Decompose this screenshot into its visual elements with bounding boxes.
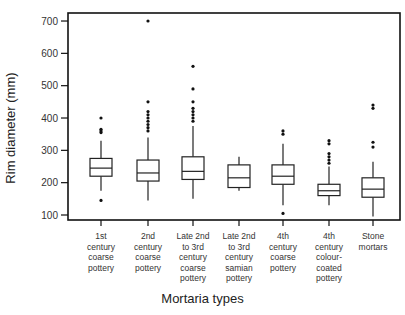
category-label-line: 1st (76, 231, 126, 242)
outlier-point (146, 126, 149, 129)
x-axis-title: Mortaria types (0, 291, 405, 306)
outlier-point (371, 146, 374, 149)
iqr-box (137, 160, 159, 181)
outlier-point (327, 162, 330, 165)
outlier-point (99, 199, 102, 202)
category-label-line: mortars (348, 242, 398, 253)
y-tick-label: 600 (41, 48, 58, 59)
y-tick-label: 400 (41, 113, 58, 124)
category-label-line: 2nd (123, 231, 173, 242)
category-label-line: pottery (214, 273, 264, 284)
category-label-line: coated (304, 263, 354, 274)
category-label-line: to 3rd (168, 242, 218, 253)
outlier-point (191, 65, 194, 68)
category-label-line: Late 2nd (168, 231, 218, 242)
x-axis (101, 220, 373, 226)
box-6 (318, 139, 340, 205)
box-5 (272, 129, 294, 215)
outlier-point (191, 110, 194, 113)
outlier-point (327, 142, 330, 145)
outlier-point (327, 152, 330, 155)
y-tick-label: 100 (41, 210, 58, 221)
outlier-point (191, 113, 194, 116)
outlier-point (146, 110, 149, 113)
outlier-point (191, 120, 194, 123)
category-label-line: pottery (123, 263, 173, 274)
outlier-point (327, 158, 330, 161)
category-label-line: coarse (168, 263, 218, 274)
outlier-point (281, 212, 284, 215)
box-7 (362, 103, 384, 216)
category-label-line: 4th (258, 231, 308, 242)
y-axis-title: Rim diameter (mm) (3, 63, 23, 193)
outlier-point (146, 113, 149, 116)
outlier-point (191, 100, 194, 103)
outlier-point (371, 103, 374, 106)
x-category-label: 4thcenturycoarsepottery (258, 231, 308, 273)
x-category-label: 1stcenturycoarsepottery (76, 231, 126, 273)
outlier-point (371, 107, 374, 110)
outlier-point (191, 87, 194, 90)
x-category-label: Late 2ndto 3rdcenturycoarsepottery (168, 231, 218, 284)
outlier-point (191, 116, 194, 119)
category-label-line: pottery (76, 263, 126, 274)
category-label-line: century (76, 242, 126, 253)
category-label-line: century (258, 242, 308, 253)
iqr-box (272, 165, 294, 184)
category-label-line: century (214, 252, 264, 263)
category-label-line: century (168, 252, 218, 263)
plot-border (68, 13, 400, 220)
outlier-point (146, 120, 149, 123)
iqr-box (90, 158, 112, 176)
outlier-point (371, 141, 374, 144)
category-label-line: to 3rd (214, 242, 264, 253)
outlier-point (146, 100, 149, 103)
y-tick-label: 300 (41, 145, 58, 156)
outlier-point (99, 128, 102, 131)
outlier-point (281, 129, 284, 132)
category-label-line: pottery (304, 273, 354, 284)
category-label-line: colour- (304, 252, 354, 263)
category-label-line: century (123, 242, 173, 253)
category-label-line: pottery (168, 273, 218, 284)
category-label-line: coarse (76, 252, 126, 263)
outlier-point (146, 129, 149, 132)
plot-frame (68, 13, 400, 220)
box-2 (137, 19, 159, 200)
x-category-label: 2ndcenturycoarsepottery (123, 231, 173, 273)
category-label-line: 4th (304, 231, 354, 242)
category-label-line: pottery (258, 263, 308, 274)
y-axis: 100200300400500600700 (41, 16, 68, 221)
outlier-point (146, 123, 149, 126)
box-4 (228, 157, 250, 191)
category-label-line: Late 2nd (214, 231, 264, 242)
category-label-line: Stone (348, 231, 398, 242)
category-label-line: samian (214, 263, 264, 274)
boxes (90, 19, 384, 216)
y-tick-label: 700 (41, 16, 58, 27)
iqr-box (362, 178, 384, 197)
outlier-point (281, 133, 284, 136)
box-1 (90, 116, 112, 202)
x-category-label: 4thcenturycolour-coatedpottery (304, 231, 354, 284)
iqr-box (318, 184, 340, 195)
outlier-point (99, 116, 102, 119)
box-3 (182, 65, 204, 199)
category-label-line: century (304, 242, 354, 253)
y-tick-label: 500 (41, 80, 58, 91)
iqr-box (228, 165, 250, 188)
category-label-line: coarse (123, 252, 173, 263)
outlier-point (191, 107, 194, 110)
outlier-point (146, 116, 149, 119)
outlier-point (327, 155, 330, 158)
category-label-line: coarse (258, 252, 308, 263)
iqr-box (182, 157, 204, 180)
y-tick-label: 200 (41, 177, 58, 188)
x-category-label: Stonemortars (348, 231, 398, 252)
outlier-point (146, 19, 149, 22)
outlier-point (327, 139, 330, 142)
x-category-label: Late 2ndto 3rdcenturysamianpottery (214, 231, 264, 284)
